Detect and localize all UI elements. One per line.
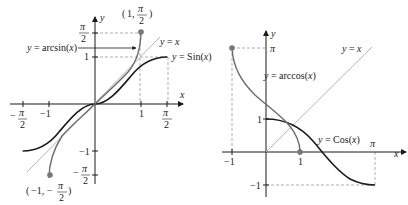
right-x-axis-label: x — [393, 148, 399, 159]
right-dashed-guides — [232, 48, 375, 185]
right-ytick-neg-one: −1 — [250, 180, 261, 191]
svg-text:π: π — [58, 180, 64, 191]
left-xtick-neg-pi-half-num: π — [19, 107, 25, 118]
right-y-axis-label: y — [270, 28, 276, 39]
svg-text:1,: 1, — [127, 8, 135, 19]
left-xtick-pi-half-den: 2 — [164, 119, 169, 130]
svg-text:): ) — [149, 8, 152, 20]
left-ytick-neg-one: −1 — [79, 146, 90, 157]
label-left-identity: y = x — [159, 36, 180, 47]
right-xtick-one: 1 — [298, 156, 303, 167]
label-cos: y = Cos(x) — [317, 134, 360, 146]
left-ytick-neg-pi-half-num: π — [82, 163, 88, 174]
left-x-axis-label: x — [179, 89, 185, 100]
point-top-label: ( 1, π 2 ) — [122, 3, 152, 26]
left-ytick-pi-half-den: 2 — [81, 33, 86, 44]
left-xtick-neg-pi-half-den: 2 — [20, 119, 25, 130]
svg-text:(: ( — [26, 185, 30, 197]
right-xtick-neg-one: −1 — [224, 156, 235, 167]
point-arccos-end — [297, 149, 303, 155]
left-ytick-pi-half-num: π — [80, 21, 86, 32]
left-xtick-neg-sign: − — [10, 110, 16, 121]
left-xtick-one: 1 — [139, 108, 144, 119]
right-chart: y x π 1 −1 −1 1 π y = arccos(x) y = x y … — [222, 28, 406, 197]
svg-text:(: ( — [122, 8, 126, 20]
right-ytick-pi: π — [270, 43, 276, 54]
point-arccos-start — [229, 45, 235, 51]
svg-text:): ) — [68, 185, 71, 197]
point-top-right — [138, 29, 144, 35]
label-arccos: y = arccos(x) — [263, 70, 316, 82]
svg-text:2: 2 — [59, 192, 64, 203]
svg-text:π: π — [138, 3, 144, 14]
point-bottom-label: ( −1, − π 2 ) — [26, 180, 71, 203]
right-ytick-one: 1 — [257, 114, 262, 125]
point-bottom-left — [47, 172, 53, 178]
label-sin: y = Sin(x) — [171, 51, 212, 63]
label-right-identity: y = x — [341, 43, 362, 54]
left-y-axis-label: y — [99, 12, 105, 23]
left-xtick-neg-one: −1 — [40, 108, 51, 119]
left-ytick-neg-sign: − — [73, 167, 79, 178]
right-xtick-pi: π — [370, 138, 376, 149]
label-arcsin: y = arcsin(x) — [26, 42, 77, 54]
figure: y x π 2 1 −1 − π 2 − π 2 −1 1 π 2 ( 1, π… — [0, 0, 408, 205]
left-chart: y x π 2 1 −1 − π 2 − π 2 −1 1 π 2 ( 1, π… — [10, 3, 212, 203]
svg-text:2: 2 — [139, 15, 144, 26]
left-ytick-neg-pi-half-den: 2 — [83, 175, 88, 186]
left-ytick-one: 1 — [84, 51, 89, 62]
svg-text:−1, −: −1, − — [31, 185, 53, 196]
left-xtick-pi-half-num: π — [163, 107, 169, 118]
